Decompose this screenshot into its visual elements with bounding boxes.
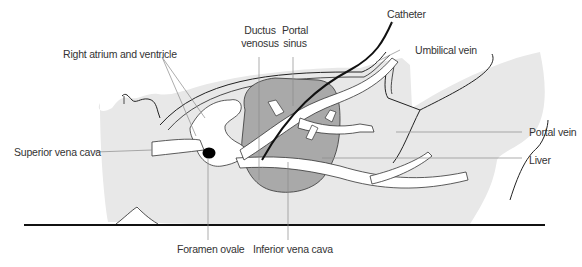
- foramen-ovale-dot: [203, 148, 216, 159]
- label-catheter: Catheter: [387, 8, 426, 20]
- liver-shape: [242, 78, 340, 192]
- label-umbilical-vein: Umbilical vein: [415, 44, 477, 56]
- label-superior-vena-cava: Superior vena cava: [14, 146, 101, 158]
- label-foramen-ovale: Foramen ovale: [177, 243, 244, 255]
- label-ductus-venosus-line2: venosus: [239, 37, 281, 49]
- label-portal-sinus-line1: Portal: [280, 24, 310, 36]
- label-right-atrium-and-ventricle: Right atrium and ventricle: [63, 48, 177, 60]
- label-portal-sinus-line2: sinus: [280, 37, 310, 49]
- label-ductus-venosus-line1: Ductus: [241, 24, 279, 36]
- label-portal-vein: Portal vein: [529, 126, 576, 138]
- fetal-circulation-diagram: Right atrium and ventricle Ductus venosu…: [0, 0, 582, 267]
- label-inferior-vena-cava: Inferior vena cava: [253, 243, 333, 255]
- label-liver: Liver: [529, 154, 551, 166]
